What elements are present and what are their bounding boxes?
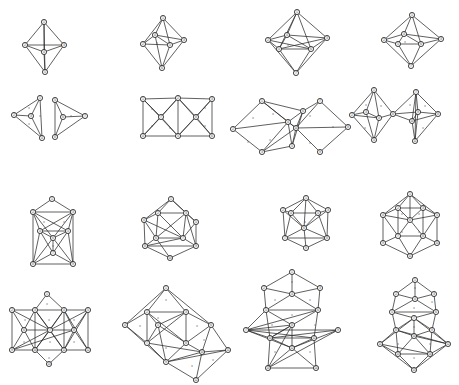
graph-node-circle [380, 212, 385, 217]
graph-node: 7 [47, 327, 52, 332]
graph-node: 5 [315, 210, 320, 215]
graph-node-circle [303, 245, 308, 250]
graph-node: 1 [160, 15, 165, 20]
graph-node-circle [52, 97, 57, 102]
graph-node: 12 [85, 347, 90, 352]
graph-node: 6 [315, 307, 320, 312]
graph-node-circle [41, 49, 46, 54]
graph-node: 1 [259, 98, 264, 103]
graph-node-circle [261, 285, 266, 290]
graph-node-circle [70, 209, 75, 214]
graph-node: 6 [208, 322, 213, 327]
graph-node: 2 [230, 126, 235, 131]
graph-node-circle [168, 196, 173, 201]
graph-node: 8 [289, 322, 294, 327]
graph-node: 4 [285, 119, 290, 124]
graph-node-circle [39, 135, 44, 140]
graph-node: 5 [42, 69, 47, 74]
graph-node-circle [61, 42, 66, 47]
graph-node-circle [324, 235, 329, 240]
graph-node: 11 [407, 253, 412, 258]
graph-node-circle [294, 9, 299, 14]
graph-node-circle [52, 134, 57, 139]
graph-node-circle [438, 36, 443, 41]
graph-node-circle [301, 225, 306, 230]
graph-node-circle [180, 235, 185, 240]
graph-node-circle [420, 233, 425, 238]
graph-node: 5 [65, 228, 70, 233]
graph-node-circle [37, 95, 42, 100]
graph-node: 11 [412, 138, 417, 143]
graph-node: 4 [122, 322, 127, 327]
graph-node: 7 [293, 70, 298, 75]
graph-node: 10 [293, 125, 298, 130]
graph-node: 6 [407, 217, 412, 222]
graph-node: 7 [395, 233, 400, 238]
graph-node: 5 [263, 307, 268, 312]
graph-node: 7 [282, 235, 287, 240]
graph-node: 3 [431, 291, 436, 296]
graph-node: 4 [39, 135, 44, 140]
graph-node-circle [427, 351, 432, 356]
graph-node-circle [85, 347, 90, 352]
graph-node-circle [22, 42, 27, 47]
graph-node: 11 [311, 335, 316, 340]
graph-node-circle [431, 291, 436, 296]
graph-node-circle [284, 32, 289, 37]
graph-node-circle [308, 46, 313, 51]
graph-node-circle [335, 327, 340, 332]
graph-node-circle [47, 327, 52, 332]
graph-node-circle [289, 345, 294, 350]
graph-node-circle [160, 15, 165, 20]
graph-node-circle [263, 307, 268, 312]
graph-node-circle [407, 191, 412, 196]
graph-node-circle [82, 113, 87, 118]
graph-node: 7 [50, 250, 55, 255]
graph-node: 9 [415, 109, 420, 114]
graph-node-circle [193, 243, 198, 248]
graph-node: 3 [183, 210, 188, 215]
graph-node: 7 [144, 340, 149, 345]
graph-node-circle [208, 322, 213, 327]
graph-node: 1 [371, 87, 376, 92]
graph-node: 8 [193, 114, 198, 119]
graph-node-circle [411, 367, 416, 372]
graph-node: 4 [376, 115, 381, 120]
graph-node: 4 [412, 296, 417, 301]
graph-node: 9 [193, 243, 198, 248]
graph-node-circle [155, 322, 160, 327]
graph-node: 3 [28, 113, 33, 118]
graph-node-circle [433, 309, 438, 314]
graph-node: 10 [32, 347, 37, 352]
graph-node: 1 [294, 9, 299, 14]
graph-node-circle [175, 133, 180, 138]
graph-node: 8 [420, 233, 425, 238]
graph-node-circle [152, 32, 157, 37]
graph-node-circle [193, 377, 198, 382]
graph-node: 6 [50, 235, 55, 240]
graph-node: 3 [32, 307, 37, 312]
graph-node-circle [61, 307, 66, 312]
graph-node: 7 [413, 89, 418, 94]
graph-node: 6 [300, 108, 305, 113]
graph-node: 5 [389, 309, 394, 314]
graph-node-circle [37, 228, 42, 233]
graph-node: 8 [52, 134, 57, 139]
graph-node: 2 [395, 205, 400, 210]
graph-node: 4 [141, 217, 146, 222]
graph-node: 4 [37, 228, 42, 233]
graph-node-circle [167, 255, 172, 260]
graph-node: 9 [429, 327, 434, 332]
graph-node-circle [140, 96, 145, 101]
graph-node-circle [411, 333, 416, 338]
graph-node-circle [412, 138, 417, 143]
graph-node-circle [183, 309, 188, 314]
graph-node: 7 [180, 235, 185, 240]
graph-node-circle [315, 210, 320, 215]
graph-node-circle [144, 340, 149, 345]
graph-node: 5 [395, 41, 400, 46]
graph-node: 15 [411, 367, 416, 372]
graph-node: 3 [325, 207, 330, 212]
graph-node: 6 [301, 225, 306, 230]
graph-node-circle [159, 65, 164, 70]
